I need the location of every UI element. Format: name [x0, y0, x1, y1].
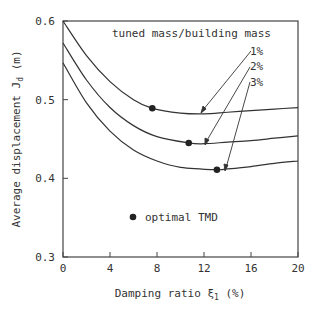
optimal-points — [149, 105, 220, 173]
x-tick-label: 20 — [291, 262, 304, 275]
optimal-point — [214, 166, 221, 173]
optimal-point — [185, 140, 192, 147]
y-tick-label: 0.5 — [35, 94, 55, 107]
x-tick-label: 8 — [154, 262, 161, 275]
marker-legend-label: optimal TMD — [145, 211, 218, 224]
curve-2pct — [63, 43, 298, 144]
label-2pct: 2% — [250, 60, 264, 73]
x-tick-label: 0 — [60, 262, 67, 275]
y-axis-title: Average displacement Jd (m) — [10, 50, 25, 227]
label-3pct: 3% — [250, 76, 264, 89]
legend-title: tuned mass/building mass — [112, 27, 271, 40]
label-1pct: 1% — [250, 45, 264, 58]
x-axis-title: Damping ratio ξ1 (%) — [115, 287, 246, 302]
chart: 0.30.40.50.6 048121620 tuned mass/buildi… — [0, 0, 316, 310]
y-tick-labels: 0.30.40.50.6 — [35, 15, 55, 264]
curves — [63, 21, 298, 170]
y-tick-label: 0.3 — [35, 251, 55, 264]
x-tick-label: 16 — [244, 262, 257, 275]
x-tick-label: 12 — [197, 262, 210, 275]
y-tick-label: 0.6 — [35, 15, 55, 28]
x-tick-labels: 048121620 — [60, 262, 305, 275]
x-tick-label: 4 — [107, 262, 114, 275]
y-tick-label: 0.4 — [35, 172, 55, 185]
optimal-point — [149, 105, 156, 112]
marker-legend-dot — [130, 214, 137, 221]
